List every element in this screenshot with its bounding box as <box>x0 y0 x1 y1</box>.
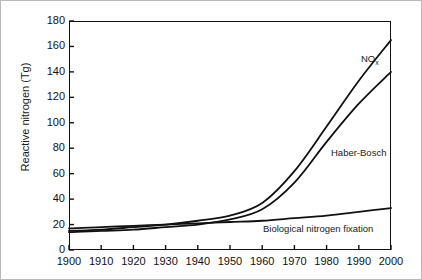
x-tick-label: 2000 <box>367 256 415 267</box>
y-tick-label: 40 <box>25 193 65 204</box>
y-tick-label: 80 <box>25 142 65 153</box>
y-tick-label: 120 <box>25 91 65 102</box>
y-axis-tick-labels: 020406080100120140160180 <box>21 1 65 280</box>
series-label-haber-bosch: Haber-Bosch <box>331 147 386 158</box>
y-tick-label: 180 <box>25 15 65 26</box>
series-label-nox: NOx <box>361 53 379 66</box>
series-label-biological-nitrogen-fixation: Biological nitrogen fixation <box>263 223 373 234</box>
y-tick-label: 160 <box>25 40 65 51</box>
y-tick-label: 100 <box>25 117 65 128</box>
x-axis-tick-labels: 1900191019201930194019501960197019801990… <box>1 256 422 276</box>
y-tick-label: 20 <box>25 219 65 230</box>
y-tick-label: 140 <box>25 66 65 77</box>
chart-figure: Reactive nitrogen (Tg) 02040608010012014… <box>0 0 422 280</box>
y-tick-label: 60 <box>25 168 65 179</box>
y-tick-label: 0 <box>25 244 65 255</box>
plot-area <box>69 21 391 250</box>
